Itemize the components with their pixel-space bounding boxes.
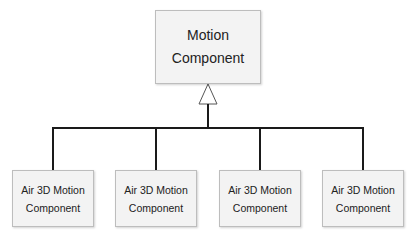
child-label-line1: Air 3D Motion: [331, 181, 395, 199]
child-label-line1: Air 3D Motion: [228, 181, 292, 199]
child-label-line1: Air 3D Motion: [124, 181, 188, 199]
child-label-line2: Component: [331, 199, 395, 217]
child-class-box: Air 3D Motion Component: [219, 170, 301, 227]
parent-class-box: Motion Component: [155, 10, 261, 84]
child-class-box: Air 3D Motion Component: [12, 170, 94, 227]
child-label-line2: Component: [124, 199, 188, 217]
inheritance-arrow-icon: [199, 84, 217, 104]
child-label-line1: Air 3D Motion: [21, 181, 85, 199]
parent-label-line2: Component: [172, 47, 244, 70]
child-class-box: Air 3D Motion Component: [115, 170, 197, 227]
child-label-line2: Component: [21, 199, 85, 217]
child-label-line2: Component: [228, 199, 292, 217]
child-class-box: Air 3D Motion Component: [322, 170, 404, 227]
parent-label-line1: Motion: [172, 24, 244, 47]
